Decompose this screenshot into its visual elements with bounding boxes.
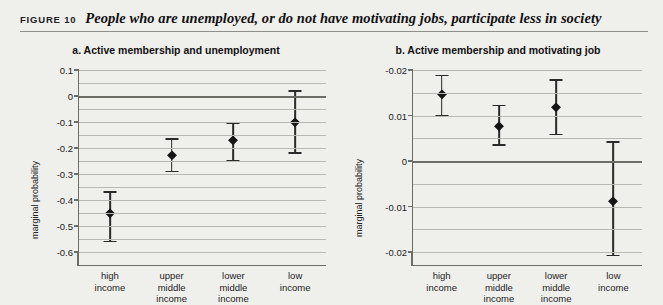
- data-point-marker: [609, 196, 618, 205]
- figure-container: FIGURE 10 People who are unemployed, or …: [0, 0, 663, 305]
- x-axis-category-label: highincome: [426, 270, 457, 293]
- x-axis-label-line: high: [426, 270, 457, 282]
- x-axis-label-line: income: [218, 293, 249, 305]
- y-axis-tick-mark: [408, 251, 413, 252]
- x-axis-label-line: low: [598, 270, 629, 282]
- gridline: [413, 252, 642, 253]
- y-axis-tick-mark: [74, 95, 79, 96]
- panel-b-plot-area: highincomeuppermiddleincomelowermiddlein…: [412, 70, 642, 252]
- panel-a-title: a. Active membership and unemployment: [20, 44, 332, 56]
- panel-a-x-axis-line: [79, 265, 326, 267]
- gridline: [79, 200, 326, 201]
- gridline: [413, 93, 642, 94]
- gridline: [79, 135, 326, 136]
- x-axis-label-line: upper: [484, 270, 515, 282]
- x-axis-category-label: lowermiddleincome: [541, 270, 572, 305]
- y-axis-tick-mark: [408, 115, 413, 116]
- error-bar-cap-lower: [103, 241, 116, 243]
- y-axis-tick-label: -0.1: [57, 117, 73, 128]
- y-axis-tick-label: -0.6: [57, 247, 73, 258]
- x-axis-category-label: uppermiddleincome: [156, 270, 187, 305]
- x-axis-label-line: lower: [541, 270, 572, 282]
- zero-reference-line: [79, 96, 326, 98]
- zero-reference-line: [413, 161, 642, 163]
- gridline: [79, 213, 326, 214]
- y-axis-tick-mark: [74, 225, 79, 226]
- gridline: [413, 184, 642, 185]
- chart-panel-a: a. Active membership and unemployment ma…: [20, 44, 332, 300]
- gridline: [79, 174, 326, 175]
- y-axis-tick-label: -0.5: [57, 221, 73, 232]
- panel-b-y-axis-label: marginal probability: [354, 159, 364, 237]
- error-bar-cap-lower: [165, 171, 178, 173]
- y-axis-tick-mark: [74, 69, 79, 70]
- y-axis-tick-mark: [408, 160, 413, 161]
- figure-caption: People who are unemployed, or do not hav…: [85, 10, 601, 27]
- gridline: [413, 207, 642, 208]
- y-axis-tick-label: -0.02: [385, 65, 407, 76]
- x-axis-label-line: high: [95, 270, 126, 282]
- x-axis-label-line: income: [156, 293, 187, 305]
- gridline: [413, 229, 642, 230]
- gridline: [79, 161, 326, 162]
- x-axis-label-line: middle: [218, 282, 249, 294]
- error-bar-cap-upper: [435, 75, 448, 77]
- y-axis-tick-label: -0.2: [57, 143, 73, 154]
- x-axis-label-line: middle: [156, 282, 187, 294]
- error-bar-cap-upper: [492, 105, 505, 107]
- y-axis-tick-mark: [408, 206, 413, 207]
- y-axis-tick-label: -0.4: [57, 195, 73, 206]
- error-bar-cap-lower: [550, 134, 563, 136]
- y-axis-tick-label: -0.02: [385, 247, 407, 258]
- y-axis-tick-label: 0.01: [389, 110, 408, 121]
- x-axis-label-line: income: [598, 282, 629, 294]
- gridline: [79, 122, 326, 123]
- x-axis-label-line: income: [484, 293, 515, 305]
- panel-b-axis-stub: [411, 252, 413, 266]
- panel-a-axis-stub: [77, 252, 79, 266]
- data-point-marker: [494, 121, 503, 130]
- x-axis-label-line: middle: [541, 282, 572, 294]
- panel-a-y-axis-label: marginal probability: [30, 161, 40, 239]
- y-axis-tick-mark: [74, 121, 79, 122]
- y-axis-tick-label: -0.01: [385, 201, 407, 212]
- error-bar-cap-upper: [103, 191, 116, 193]
- error-bar-cap-lower: [289, 152, 302, 154]
- error-bar-cap-upper: [165, 138, 178, 140]
- gridline: [79, 239, 326, 240]
- error-bar-cap-upper: [607, 141, 620, 143]
- error-bar-cap-lower: [492, 144, 505, 146]
- gridline: [79, 83, 326, 84]
- y-axis-tick-label: 0: [68, 91, 73, 102]
- x-axis-label-line: upper: [156, 270, 187, 282]
- x-axis-category-label: uppermiddleincome: [484, 270, 515, 305]
- panel-b-x-axis-line: [413, 265, 642, 267]
- y-axis-tick-mark: [74, 199, 79, 200]
- panel-a-plot-area: highincomeuppermiddleincomelowermiddlein…: [78, 70, 326, 252]
- gridline: [79, 148, 326, 149]
- error-bar-cap-upper: [289, 90, 302, 92]
- gridline: [413, 138, 642, 139]
- figure-number-label: FIGURE 10: [20, 14, 76, 25]
- y-axis-tick-mark: [74, 147, 79, 148]
- error-bar-cap-upper: [550, 79, 563, 81]
- x-axis-label-line: middle: [484, 282, 515, 294]
- gridline: [413, 70, 642, 71]
- gridline: [413, 116, 642, 117]
- gridline: [79, 226, 326, 227]
- chart-panel-b: b. Active membership and motivating job …: [348, 44, 648, 300]
- x-axis-label-line: income: [541, 293, 572, 305]
- x-axis-category-label: lowermiddleincome: [218, 270, 249, 305]
- gridline: [79, 70, 326, 71]
- y-axis-tick-mark: [408, 69, 413, 70]
- y-axis-tick-mark: [74, 251, 79, 252]
- error-bar-cap-lower: [607, 255, 620, 257]
- panel-b-title: b. Active membership and motivating job: [348, 44, 648, 56]
- y-axis-tick-label: 0.1: [60, 65, 73, 76]
- data-point-marker: [167, 150, 176, 159]
- data-point-marker: [552, 103, 561, 112]
- header-divider: [20, 31, 648, 32]
- gridline: [79, 109, 326, 110]
- gridline: [79, 187, 326, 188]
- x-axis-label-line: income: [280, 282, 311, 294]
